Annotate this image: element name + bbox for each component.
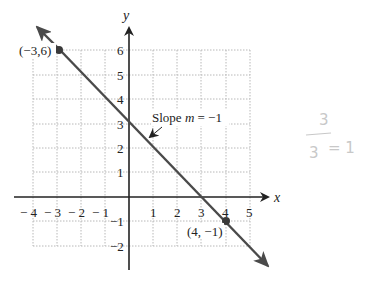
svg-text:3: 3 [309,144,319,162]
svg-text:− 3: − 3 [44,205,61,220]
line-slope-minus-one-main [60,50,268,266]
point-label-4-neg1: (4, −1) [187,224,223,239]
svg-text:5: 5 [117,68,124,83]
svg-text:3: 3 [117,117,124,132]
svg-text:3: 3 [319,111,329,129]
svg-text:5: 5 [246,205,253,220]
slope-annotation: Slope m = −1 [152,110,222,125]
y-axis-label: y [121,8,130,23]
svg-text:− 2: − 2 [68,205,85,220]
point-label-neg3-6: (−3,6) [19,43,51,58]
svg-text:−2: −2 [110,239,124,254]
coordinate-plane: x y − 4 − 3 − 2 − 1 1 2 3 4 5 6 5 4 3 2 … [0,0,366,286]
svg-text:−1: −1 [110,214,124,229]
svg-text:4: 4 [117,92,124,107]
point-neg3-6 [55,46,63,54]
svg-text:1: 1 [150,205,157,220]
svg-text:2: 2 [174,205,181,220]
svg-text:= 1: = 1 [328,139,355,157]
handwritten-note: 3 3 = 1 [306,111,355,162]
svg-text:− 4: − 4 [20,205,38,220]
grid [33,50,250,246]
x-axis-label: x [273,190,281,205]
svg-text:2: 2 [117,141,124,156]
slope-annotation-arrow [150,127,162,137]
svg-text:6: 6 [117,43,124,58]
svg-text:3: 3 [198,205,205,220]
svg-text:1: 1 [117,165,124,180]
svg-text:− 1: − 1 [92,205,109,220]
